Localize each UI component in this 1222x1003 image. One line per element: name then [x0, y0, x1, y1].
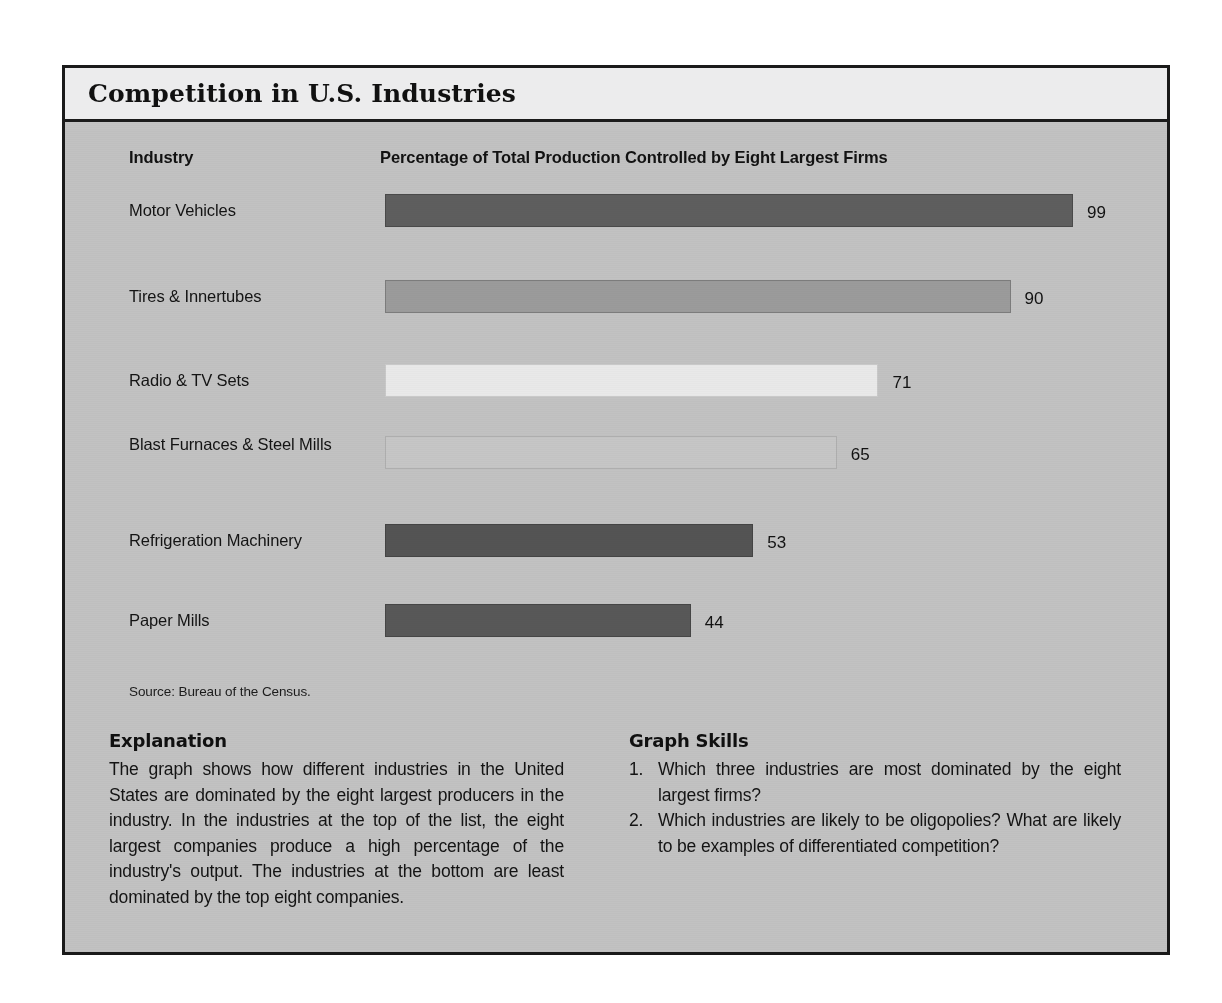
question-text: Which three industries are most dominate…	[658, 759, 1121, 805]
column-headers: Industry Percentage of Total Production …	[65, 148, 1167, 172]
bar-track: 99	[385, 194, 1145, 252]
chart-row: Motor Vehicles99	[65, 194, 1167, 252]
column-header-industry: Industry	[129, 148, 193, 167]
bar-track: 53	[385, 524, 1145, 582]
bar	[385, 364, 878, 397]
bar	[385, 436, 837, 469]
bar-label: Blast Furnaces & Steel Mills	[129, 434, 364, 455]
chart-row: Radio & TV Sets71	[65, 364, 1167, 422]
bar-value-label: 65	[851, 445, 870, 465]
bar	[385, 604, 691, 637]
graph-skills-list: 1.Which three industries are most domina…	[629, 757, 1121, 859]
bar-label: Refrigeration Machinery	[129, 530, 364, 551]
chart-row: Tires & Innertubes90	[65, 280, 1167, 338]
bar-value-label: 99	[1087, 203, 1106, 223]
graph-skills-question: 2.Which industries are likely to be olig…	[629, 808, 1121, 859]
text-columns: Explanation The graph shows how differen…	[65, 730, 1167, 950]
bar-label: Tires & Innertubes	[129, 286, 364, 307]
explanation-heading: Explanation	[109, 730, 564, 751]
page-title: Competition in U.S. Industries	[65, 79, 516, 108]
column-header-percentage: Percentage of Total Production Controlle…	[380, 148, 888, 167]
bar-track: 90	[385, 280, 1145, 338]
bar-value-label: 44	[705, 613, 724, 633]
graph-skills-heading: Graph Skills	[629, 730, 1121, 751]
bar-label: Radio & TV Sets	[129, 370, 364, 391]
source-note: Source: Bureau of the Census.	[129, 684, 311, 699]
explanation-column: Explanation The graph shows how differen…	[109, 730, 564, 910]
bar-value-label: 90	[1025, 289, 1044, 309]
chart-row: Blast Furnaces & Steel Mills65	[65, 436, 1167, 494]
bar-chart: Motor Vehicles99Tires & Innertubes90Radi…	[65, 194, 1167, 694]
figure-title-bar: Competition in U.S. Industries	[65, 68, 1167, 122]
bar	[385, 280, 1011, 313]
bar	[385, 194, 1073, 227]
bar-track: 71	[385, 364, 1145, 422]
graph-skills-question: 1.Which three industries are most domina…	[629, 757, 1121, 808]
figure-body: Industry Percentage of Total Production …	[65, 122, 1167, 952]
bar-label: Motor Vehicles	[129, 200, 364, 221]
question-number: 2.	[629, 808, 655, 834]
graph-skills-column: Graph Skills 1.Which three industries ar…	[629, 730, 1121, 859]
bar	[385, 524, 753, 557]
bar-value-label: 71	[892, 373, 911, 393]
question-text: Which industries are likely to be oligop…	[658, 810, 1121, 856]
question-number: 1.	[629, 757, 655, 783]
chart-row: Paper Mills44	[65, 604, 1167, 662]
bar-value-label: 53	[767, 533, 786, 553]
explanation-body: The graph shows how different industries…	[109, 757, 564, 910]
page-root: Competition in U.S. Industries Industry …	[0, 0, 1222, 1003]
bar-track: 44	[385, 604, 1145, 662]
bar-track: 65	[385, 436, 1145, 494]
figure-frame: Competition in U.S. Industries Industry …	[62, 65, 1170, 955]
chart-row: Refrigeration Machinery53	[65, 524, 1167, 582]
bar-label: Paper Mills	[129, 610, 364, 631]
